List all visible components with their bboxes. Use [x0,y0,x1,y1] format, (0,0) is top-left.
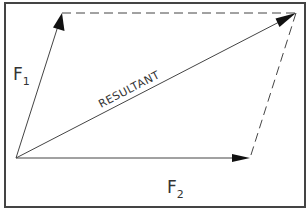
vector-resultant [16,13,296,158]
force-parallelogram-diagram: F1 RESULTANT F2 [0,0,308,214]
f2-label: F2 [167,177,184,201]
dashed-right-edge [250,13,296,158]
arrowhead-icon [276,13,297,27]
resultant-label: RESULTANT [96,68,162,110]
vector-f2 [16,154,250,162]
diagram-frame [5,3,305,207]
arrowhead-icon [232,154,250,162]
arrowhead-icon [53,13,65,31]
f1-label: F1 [13,64,30,88]
